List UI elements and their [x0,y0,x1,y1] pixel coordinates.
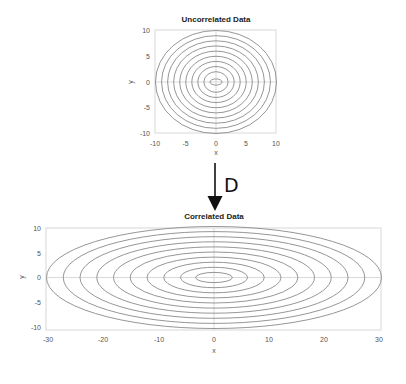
correlated-xlabel: x [212,347,216,354]
uncorrelated-xticks: -10 -5 0 5 10 [150,140,280,147]
xtick: 0 [214,140,218,147]
uncorrelated-ylabel: y [127,80,135,84]
xtick: 30 [375,336,383,343]
arrow-down-icon [208,196,223,211]
correlated-title: Correlated Data [184,212,244,221]
xtick: -30 [43,336,53,343]
xtick: 20 [320,336,328,343]
ytick: 0 [37,274,41,281]
xtick: -10 [154,336,164,343]
xtick: -5 [182,140,188,147]
ytick: 10 [142,27,150,34]
ytick: 0 [146,79,150,86]
xtick: -20 [98,336,108,343]
ytick: -5 [144,104,150,111]
transform-arrow: D [208,163,239,211]
correlated-yticks: 10 5 0 -5 -10 [31,225,41,332]
ytick: 10 [33,225,41,232]
ytick: -10 [140,130,150,137]
xtick: 10 [265,336,273,343]
uncorrelated-xlabel: x [214,149,218,156]
uncorrelated-plot: Uncorrelated Data 10 5 0 -5 -10 -10 -5 0… [127,15,280,156]
transform-label: D [224,174,239,196]
ytick: 5 [146,53,150,60]
uncorrelated-yticks: 10 5 0 -5 -10 [140,27,150,137]
xtick: 5 [244,140,248,147]
ytick: 5 [37,250,41,257]
xtick: -10 [150,140,160,147]
ytick: -5 [35,299,41,306]
diagram-canvas: Uncorrelated Data 10 5 0 -5 -10 -10 -5 0… [0,0,406,384]
xtick: 0 [212,336,216,343]
ytick: -10 [31,324,41,331]
correlated-plot: Correlated Data 10 5 0 -5 -10 -30 -20 -1… [18,212,383,354]
correlated-ylabel: y [18,275,26,279]
xtick: 10 [272,140,280,147]
correlated-xticks: -30 -20 -10 0 10 20 30 [43,336,383,343]
uncorrelated-title: Uncorrelated Data [182,15,251,24]
